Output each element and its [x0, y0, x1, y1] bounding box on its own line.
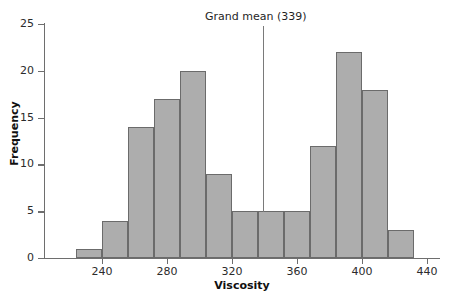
- y-tick-label-wrap-0: 0: [0, 258, 44, 259]
- histogram-bar: [154, 99, 180, 258]
- y-tick-label-wrap-25: 25: [0, 24, 44, 25]
- y-tick-label-0: 0: [4, 252, 34, 263]
- histogram-bar: [128, 127, 154, 258]
- x-tick-label-240: 240: [82, 266, 122, 277]
- x-tick-320: [232, 258, 233, 264]
- y-tick-label-25: 25: [4, 18, 34, 29]
- y-tick-label-5: 5: [4, 205, 34, 216]
- x-tick-240: [102, 258, 103, 264]
- x-tick-440: [427, 258, 428, 264]
- y-tick-label-20: 20: [4, 65, 34, 76]
- histogram-bar: [206, 174, 232, 258]
- histogram-bar: [76, 249, 102, 258]
- x-tick-label-320: 320: [212, 266, 252, 277]
- histogram-chart: 0 5 10 15 20 25: [0, 0, 457, 300]
- y-axis-title: Frequency: [9, 84, 20, 184]
- x-tick-label-360: 360: [277, 266, 317, 277]
- histogram-bar: [310, 146, 336, 258]
- grand-mean-line: [263, 26, 264, 212]
- x-tick-280: [167, 258, 168, 264]
- histogram-bar: [232, 211, 258, 258]
- y-tick-label-wrap-5: 5: [0, 211, 44, 212]
- x-tick-label-440: 440: [407, 266, 447, 277]
- histogram-bar: [388, 230, 414, 258]
- plot-area: 0 5 10 15 20 25: [0, 0, 457, 300]
- x-axis-title: Viscosity: [44, 280, 440, 291]
- histogram-bar: [284, 211, 310, 258]
- histogram-bar: [336, 52, 362, 258]
- y-tick-label-wrap-20: 20: [0, 71, 44, 72]
- histogram-bar: [180, 71, 206, 258]
- x-axis-line: [44, 258, 440, 259]
- x-tick-360: [297, 258, 298, 264]
- y-axis-line: [44, 23, 45, 259]
- x-tick-400: [362, 258, 363, 264]
- histogram-bar: [258, 211, 284, 258]
- grand-mean-label: Grand mean (339): [205, 11, 307, 22]
- x-tick-label-400: 400: [342, 266, 382, 277]
- histogram-bar: [102, 221, 128, 258]
- x-tick-label-280: 280: [147, 266, 187, 277]
- histogram-bar: [362, 90, 388, 258]
